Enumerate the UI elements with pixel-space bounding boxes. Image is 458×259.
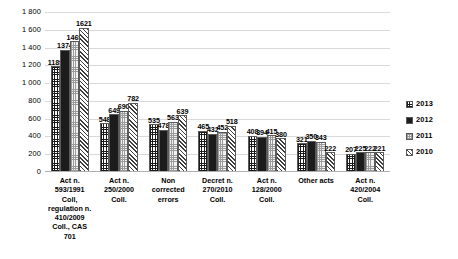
bar-2010[interactable]: 1621 (79, 28, 89, 172)
category-labels: Act n. 593/1991 Coll, regulation n. 410/… (45, 176, 390, 241)
category-label: Act n. 250/2000 Coll. (94, 176, 143, 241)
legend-swatch-icon (406, 149, 413, 156)
bar-group: 408394415380 (242, 12, 291, 172)
bar-2010[interactable]: 639 (178, 115, 188, 172)
bar-slot: 222 (326, 12, 336, 172)
y-axis-tick-label: 1 200 (22, 61, 41, 69)
bar-2012[interactable]: 432 (208, 134, 218, 172)
bar-slot: 432 (208, 12, 218, 172)
bar-2013[interactable]: 207 (346, 154, 356, 172)
bar-2013[interactable]: 535 (149, 124, 159, 172)
category-label: Act n. 128/2000 Coll. (242, 176, 291, 241)
y-axis-tick-label: 1 400 (22, 44, 41, 52)
bar-slot: 1621 (79, 12, 89, 172)
bar-groups: 1189137414691621548649690782535478563639… (45, 12, 390, 172)
bar-group: 207225222221 (341, 12, 390, 172)
bar-value-label: 639 (177, 108, 189, 116)
bar-slot: 649 (109, 12, 119, 172)
legend-item-2013[interactable]: 2013 (406, 96, 456, 112)
bar-2010[interactable]: 782 (128, 103, 138, 173)
bar-group: 465432452518 (193, 12, 242, 172)
y-axis-tick-label: 1 800 (22, 8, 41, 16)
bar-slot: 639 (178, 12, 188, 172)
bar-group: 548649690782 (94, 12, 143, 172)
bar-slot: 1189 (51, 12, 61, 172)
bar-2012[interactable]: 350 (307, 141, 317, 172)
legend-swatch-icon (406, 101, 413, 108)
bar-2010[interactable]: 518 (227, 126, 237, 172)
bar-2013[interactable]: 321 (297, 143, 307, 172)
bar-2010[interactable]: 221 (375, 152, 385, 172)
y-axis-tick-label: 1 000 (22, 79, 41, 87)
y-axis-tick-label: 0 (37, 168, 41, 176)
bar-group: 535478563639 (144, 12, 193, 172)
y-axis-tick-label: 600 (28, 115, 41, 123)
bar-slot: 394 (257, 12, 267, 172)
bar-slot: 518 (227, 12, 237, 172)
bar-slot: 782 (128, 12, 138, 172)
bar-slot: 690 (119, 12, 129, 172)
bar-slot: 415 (267, 12, 277, 172)
category-label: Non corrected errors (144, 176, 193, 241)
bar-2011[interactable]: 452 (217, 132, 227, 172)
bar-2013[interactable]: 548 (100, 123, 110, 172)
bar-slot: 535 (149, 12, 159, 172)
bar-2012[interactable]: 394 (257, 137, 267, 172)
bar-value-label: 380 (275, 131, 287, 139)
y-axis: 1 8001 6001 4001 2001 0008006004002000 (0, 12, 44, 172)
legend-label: 2012 (416, 116, 433, 124)
legend-label: 2011 (416, 132, 432, 140)
category-label: Other acts (291, 176, 340, 241)
chart-legend: 2013201220112010 (406, 96, 456, 160)
bar-slot: 563 (168, 12, 178, 172)
bar-value-label: 1621 (76, 20, 92, 28)
y-axis-tick-label: 800 (28, 97, 41, 105)
bar-2010[interactable]: 222 (326, 152, 336, 172)
category-label: Decret n. 270/2010 Coll. (193, 176, 242, 241)
bar-2012[interactable]: 478 (159, 130, 169, 172)
bar-group: 1189137414691621 (45, 12, 94, 172)
bar-2012[interactable]: 225 (356, 152, 366, 172)
bar-2011[interactable]: 690 (119, 111, 129, 172)
bar-2013[interactable]: 1189 (51, 66, 61, 172)
legend-item-2011[interactable]: 2011 (406, 128, 456, 144)
bar-slot: 408 (248, 12, 258, 172)
bar-slot: 321 (297, 12, 307, 172)
bar-2011[interactable]: 415 (267, 135, 277, 172)
bar-chart: 1 8001 6001 4001 2001 0008006004002000 1… (0, 0, 458, 259)
bar-slot: 380 (276, 12, 286, 172)
legend-label: 2013 (416, 100, 433, 108)
bar-slot: 548 (100, 12, 110, 172)
category-label: Act n. 593/1991 Coll, regulation n. 410/… (45, 176, 94, 241)
y-axis-tick-label: 1 600 (22, 26, 41, 34)
legend-item-2010[interactable]: 2010 (406, 144, 456, 160)
y-axis-tick-label: 200 (28, 150, 41, 158)
bar-slot: 350 (307, 12, 317, 172)
legend-swatch-icon (406, 117, 413, 124)
bar-slot: 478 (159, 12, 169, 172)
bar-slot: 465 (198, 12, 208, 172)
plot-area: 1189137414691621548649690782535478563639… (45, 12, 390, 172)
legend-item-2012[interactable]: 2012 (406, 112, 456, 128)
bar-value-label: 221 (374, 145, 386, 153)
bar-2011[interactable]: 222 (365, 152, 375, 172)
bar-2011[interactable]: 1469 (70, 41, 80, 172)
bar-2010[interactable]: 380 (276, 138, 286, 172)
y-axis-tick-label: 400 (28, 132, 41, 140)
axis-baseline (45, 171, 390, 172)
bar-2012[interactable]: 649 (109, 114, 119, 172)
legend-label: 2010 (416, 148, 433, 156)
bar-2013[interactable]: 465 (198, 131, 208, 172)
legend-swatch-icon (406, 133, 413, 140)
bar-slot: 221 (375, 12, 385, 172)
bar-2011[interactable]: 563 (168, 122, 178, 172)
bar-2013[interactable]: 408 (248, 136, 258, 172)
bar-slot: 452 (217, 12, 227, 172)
bar-slot: 1469 (70, 12, 80, 172)
category-label: Act n. 420/2004 Coll. (341, 176, 390, 241)
bar-group: 321350343222 (291, 12, 340, 172)
bar-value-label: 782 (127, 95, 139, 103)
bar-value-label: 518 (226, 118, 238, 126)
bar-value-label: 222 (324, 145, 336, 153)
bar-2012[interactable]: 1374 (60, 50, 70, 172)
